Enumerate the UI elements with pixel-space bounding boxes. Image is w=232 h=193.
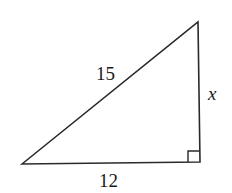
vertical-leg-label: x <box>207 83 217 104</box>
right-angle-marker <box>188 151 200 162</box>
triangle-diagram: 15 x 12 <box>0 0 232 193</box>
triangle-shape <box>22 22 200 164</box>
horizontal-leg-label: 12 <box>99 170 118 191</box>
hypotenuse-label: 15 <box>96 63 115 84</box>
